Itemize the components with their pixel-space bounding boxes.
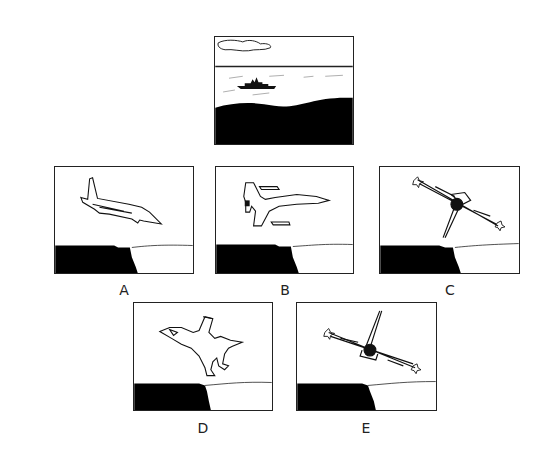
- far-shoreline: [132, 245, 193, 247]
- jet-exhaust: [245, 200, 250, 206]
- option-e-label: E: [351, 420, 381, 436]
- jet-side-view-icon: [81, 178, 161, 224]
- cliff: [380, 246, 460, 273]
- option-a-label: A: [109, 282, 139, 298]
- reference-panel: [214, 36, 354, 145]
- dark-sea: [215, 98, 352, 144]
- option-b-label: B: [270, 282, 300, 298]
- far-shoreline: [455, 244, 519, 248]
- ocean-ship-scene: [215, 37, 353, 144]
- jet-rear-view-banked-icon: [413, 177, 505, 238]
- cliff: [55, 246, 137, 273]
- far-shoreline: [293, 244, 353, 246]
- jet-top-view-icon: [244, 183, 329, 226]
- option-a-panel[interactable]: [54, 166, 194, 274]
- far-shoreline: [368, 382, 436, 386]
- option-b-panel[interactable]: [215, 166, 354, 274]
- cliff: [134, 383, 211, 410]
- far-shoreline: [205, 382, 272, 385]
- option-e-panel[interactable]: [296, 302, 437, 411]
- option-d-label: D: [188, 420, 218, 436]
- cliff: [297, 383, 376, 410]
- cloud-icon: [218, 40, 271, 51]
- jet-top-view-climbing-icon: [160, 317, 242, 376]
- cliff: [216, 245, 298, 273]
- jet-rear-view-tail-up-icon: [324, 311, 421, 374]
- ship-icon: [237, 77, 276, 89]
- option-c-panel[interactable]: [379, 166, 520, 274]
- option-c-label: C: [435, 282, 465, 298]
- option-d-panel[interactable]: [133, 302, 273, 411]
